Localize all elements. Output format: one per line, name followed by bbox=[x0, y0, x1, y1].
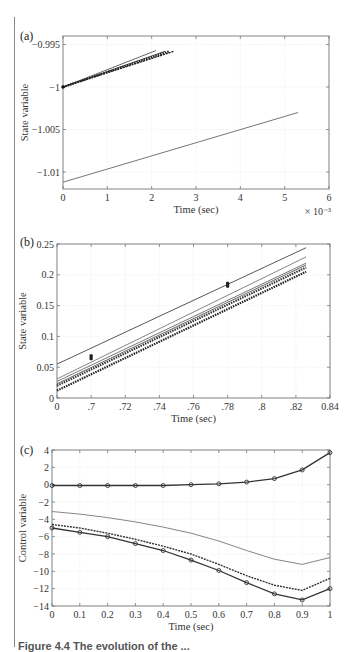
x-axis-label: Time (sec) bbox=[171, 413, 216, 425]
x-tick-label: 6 bbox=[327, 192, 332, 203]
x-tick-label: .74 bbox=[153, 401, 166, 412]
x-axis-multiplier: × 10⁻³ bbox=[305, 206, 331, 217]
x-tick-label: .72 bbox=[119, 401, 132, 412]
x-tick-label: 0.84 bbox=[321, 401, 339, 412]
x-tick-label: 5 bbox=[282, 192, 287, 203]
x-tick-label: 0.4 bbox=[157, 609, 170, 620]
x-tick-label: .8 bbox=[258, 401, 266, 412]
y-tick-label: −1 bbox=[49, 82, 60, 93]
panel-label: (a) bbox=[20, 29, 33, 43]
y-tick-label: 0.25 bbox=[37, 239, 55, 250]
series-line-s6 bbox=[57, 272, 306, 391]
x-tick-label: 0.2 bbox=[101, 609, 114, 620]
y-tick-label: −4 bbox=[38, 514, 49, 525]
x-tick-label: 0 bbox=[50, 609, 55, 620]
point-marker bbox=[226, 282, 229, 288]
y-tick-label: 0 bbox=[49, 393, 54, 404]
series-line-s5 bbox=[57, 267, 306, 385]
point-marker bbox=[90, 354, 93, 360]
y-tick-label: 0 bbox=[44, 479, 49, 490]
y-tick-label: −1.01 bbox=[37, 167, 60, 178]
x-tick-label: .78 bbox=[221, 401, 234, 412]
series-line-s4 bbox=[57, 265, 306, 384]
panel-b-state-variable-zoom-chart: 0.7.72.74.76.78.8.820.8400.050.10.150.20… bbox=[17, 235, 339, 425]
x-tick-label: 0.8 bbox=[268, 609, 281, 620]
y-tick-label: −14 bbox=[33, 601, 49, 612]
x-tick-label: 1 bbox=[105, 192, 110, 203]
y-tick-label: 0.15 bbox=[37, 300, 55, 311]
x-tick-label: 3 bbox=[194, 192, 199, 203]
y-tick-label: 4 bbox=[44, 445, 49, 456]
x-axis-label: Time (sec) bbox=[169, 621, 214, 633]
y-axis-label: State variable bbox=[17, 292, 28, 350]
y-tick-label: 0.2 bbox=[42, 269, 55, 280]
x-tick-label: .76 bbox=[187, 401, 200, 412]
series-line-s3 bbox=[57, 263, 306, 381]
x-tick-label: 1 bbox=[328, 609, 333, 620]
x-tick-label: .82 bbox=[290, 401, 303, 412]
x-tick-label: 2 bbox=[149, 192, 154, 203]
series-line-s2 bbox=[57, 257, 306, 379]
series-line-s1 bbox=[63, 51, 156, 88]
y-tick-label: −2 bbox=[38, 497, 49, 508]
initial-point-marker bbox=[61, 85, 65, 89]
y-tick-label: −12 bbox=[33, 583, 49, 594]
y-tick-label: 0.05 bbox=[37, 362, 55, 373]
series-line-u4-circles bbox=[52, 528, 330, 600]
panel-label: (b) bbox=[20, 235, 34, 249]
x-tick-label: 0.7 bbox=[240, 609, 253, 620]
x-tick-label: 0.1 bbox=[74, 609, 87, 620]
y-tick-label: 2 bbox=[44, 462, 49, 473]
panel-c-control-variable-chart: 00.10.20.30.40.50.60.70.80.91420−2−4−6−8… bbox=[17, 443, 333, 633]
x-tick-label: .7 bbox=[87, 401, 95, 412]
y-axis-label: State variable bbox=[19, 83, 30, 141]
y-tick-label: −8 bbox=[38, 549, 49, 560]
y-tick-label: 0.1 bbox=[42, 331, 55, 342]
y-tick-label: −10 bbox=[33, 566, 49, 577]
x-axis-label: Time (sec) bbox=[174, 204, 219, 216]
x-tick-label: 0.9 bbox=[296, 609, 309, 620]
x-tick-label: 0.3 bbox=[129, 609, 142, 620]
panel-label: (c) bbox=[20, 443, 33, 457]
panel-a-state-variable-chart: 0123456−0.995−1−1.005−1.01Time (sec)Stat… bbox=[19, 29, 332, 217]
x-tick-label: 0.6 bbox=[213, 609, 226, 620]
y-tick-label: −1.005 bbox=[32, 124, 60, 135]
x-tick-label: 0 bbox=[61, 192, 66, 203]
y-tick-label: −6 bbox=[38, 531, 49, 542]
x-tick-label: 0 bbox=[55, 401, 60, 412]
figure-caption: Figure 4.4 The evolution of the ... bbox=[18, 640, 190, 652]
series-line-s1 bbox=[57, 248, 306, 364]
x-tick-label: 0.5 bbox=[185, 609, 198, 620]
x-tick-label: 4 bbox=[238, 192, 243, 203]
y-axis-label: Control variable bbox=[17, 493, 28, 562]
y-tick-label: −0.995 bbox=[32, 39, 60, 50]
